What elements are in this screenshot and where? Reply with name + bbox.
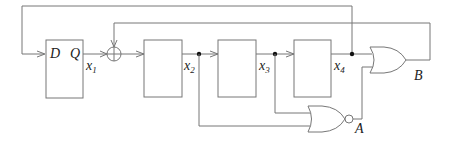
x2-label: x2: [183, 58, 195, 75]
xor-adder: [107, 47, 121, 61]
circuit-diagram: D Q x1 x2 x3 x4 A B: [0, 0, 451, 144]
or-gate: [370, 47, 406, 73]
wire-a-or: [353, 67, 373, 119]
b-label: B: [414, 68, 423, 83]
a-label: A: [354, 121, 364, 136]
delay-box-2: [144, 40, 182, 97]
x4-label: x4: [333, 58, 345, 75]
nor-gate: [308, 106, 353, 132]
x3-label: x3: [258, 58, 270, 75]
delay-box-3: [218, 40, 256, 97]
junction-x4: [350, 52, 354, 56]
delay-box-4: [294, 40, 331, 97]
d-label: D: [49, 46, 60, 61]
q-label: Q: [70, 46, 80, 61]
x1-label: x1: [85, 58, 97, 75]
